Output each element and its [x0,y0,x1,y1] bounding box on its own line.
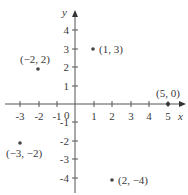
point-2-neg4 [110,178,114,182]
y-tick-label: 1 [64,80,70,92]
y-tick-label: -1 [60,116,69,128]
x-tick-label: 1 [91,110,97,122]
point-5-0 [166,102,170,106]
coordinate-plane: x y 0 -3 -2 -1 1 2 3 4 5 4 3 2 1 -1 -2 -… [0,0,188,195]
x-tick-label: 4 [146,110,152,122]
point-label: (−3, −2) [6,147,43,160]
y-tick-label: 4 [64,24,70,36]
x-tick-label: 5 [165,110,171,122]
point-neg2-2 [36,67,40,71]
x-tick-label: 2 [109,110,115,122]
point-label: (2, −4) [118,174,148,187]
x-axis-label: x [177,110,183,122]
point-1-3 [91,47,95,51]
y-axis-arrow-icon [72,10,78,17]
point-neg3-neg2 [18,141,22,145]
y-tick-label: 2 [64,61,70,73]
x-tick-label: -2 [34,110,43,122]
y-tick-label: -2 [60,135,69,147]
x-axis-arrow-icon [179,101,186,107]
y-tick-label: 3 [64,43,70,55]
x-tick-label: 3 [128,110,134,122]
y-axis-label: y [61,6,67,18]
x-tick-labels: -3 -2 -1 1 2 3 4 5 [15,110,171,122]
point-label: (1, 3) [99,43,123,56]
y-tick-label: -4 [60,172,70,184]
point-label: (−2, 2) [20,53,50,66]
x-tick-label: -3 [15,110,25,122]
point-label: (5, 0) [156,87,180,100]
y-tick-label: -3 [60,153,70,165]
